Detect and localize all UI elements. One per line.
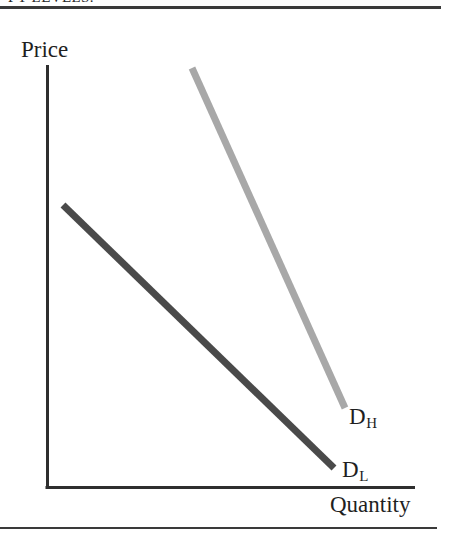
demand-curve-chart [0, 0, 453, 540]
curve-label-dl-subscript: L [359, 468, 368, 484]
curve-label-dl: DL [342, 457, 368, 483]
curve-label-dl-main: D [342, 457, 359, 482]
curve-label-dh: DH [349, 404, 376, 430]
figure-page: PY LEVELS. Price Quantity DH DL [0, 0, 453, 540]
x-axis-label: Quantity [330, 492, 411, 518]
curve-label-dh-main: D [349, 404, 366, 429]
y-axis-label: Price [21, 37, 68, 63]
demand-curve-low [63, 205, 334, 468]
chart-svg [0, 0, 453, 540]
curve-label-dh-subscript: H [366, 415, 377, 431]
bottom-horizontal-rule [0, 527, 437, 529]
